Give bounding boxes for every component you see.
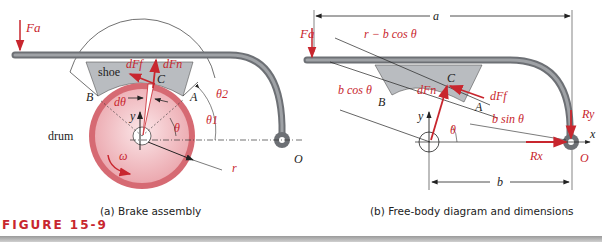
label-fa: Fa (26, 21, 40, 34)
label-rx: Rx (530, 150, 543, 162)
label-r: r (232, 162, 237, 174)
label-y: y (130, 110, 135, 122)
label-o-b: O (580, 152, 589, 164)
label-b: B (86, 91, 93, 103)
caption-a: (a) Brake assembly (100, 205, 201, 217)
label-o-a: O (294, 153, 303, 165)
label-a: A (190, 91, 197, 103)
label-shoe: shoe (98, 66, 120, 78)
label-dtheta: dθ (114, 96, 126, 108)
label-dfn-b: dFn (417, 84, 436, 96)
label-dff-b: dFf (490, 90, 507, 102)
label-c: C (157, 73, 165, 85)
label-y-b: y (418, 110, 423, 122)
label-omega: ω (119, 150, 127, 162)
label-b-b: B (378, 96, 385, 108)
label-theta-b: θ (450, 124, 456, 136)
label-dfn: dFn (163, 58, 182, 70)
label-theta2: θ2 (216, 88, 228, 100)
caption-b: (b) Free-body diagram and dimensions (370, 205, 574, 217)
label-r-minus-bcos: r − b cos θ (364, 28, 417, 40)
label-ry: Ry (582, 108, 594, 120)
label-bcos: b cos θ (338, 84, 372, 96)
label-dim-a: a (433, 10, 439, 22)
label-bsin: b sin θ (492, 113, 524, 125)
label-drum: drum (48, 130, 73, 142)
label-dff: dFf (126, 58, 143, 70)
label-theta1: θ1 (206, 114, 218, 126)
label-c-b: C (447, 72, 455, 84)
panel-a-brake-assembly (15, 19, 302, 189)
label-fa-b: Fa (300, 27, 314, 40)
figure-label: FIGURE 15-9 (2, 218, 108, 232)
label-theta: θ (174, 122, 180, 134)
label-dim-b: b (497, 176, 503, 188)
bottom-rule (0, 236, 602, 242)
label-a-b: A (475, 101, 482, 113)
label-x-b: x (590, 128, 595, 140)
panel-b-free-body (307, 10, 590, 190)
